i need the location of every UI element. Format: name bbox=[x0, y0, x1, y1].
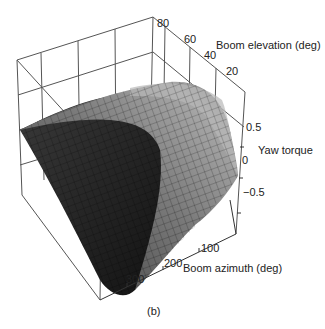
yaw-tick-neg0.5: −0.5 bbox=[243, 187, 265, 198]
elevation-axis-label: Boom elevation (deg) bbox=[216, 40, 321, 51]
elevation-tick-40: 40 bbox=[204, 50, 216, 61]
yaw-tick-0.5: 0.5 bbox=[246, 122, 261, 133]
azimuth-tick-300: 300 bbox=[126, 274, 144, 285]
figure-caption: (b) bbox=[147, 305, 160, 317]
elevation-tick-80: 80 bbox=[157, 18, 169, 29]
azimuth-tick-200: 200 bbox=[164, 258, 182, 269]
yaw-tick-0: 0 bbox=[242, 155, 248, 166]
elevation-tick-20: 20 bbox=[226, 66, 238, 77]
azimuth-tick-100: 100 bbox=[201, 243, 219, 254]
yaw-axis-label: Yaw torque bbox=[258, 145, 313, 156]
elevation-tick-60: 60 bbox=[184, 34, 196, 45]
azimuth-axis-label: Boom azimuth (deg) bbox=[183, 263, 282, 274]
